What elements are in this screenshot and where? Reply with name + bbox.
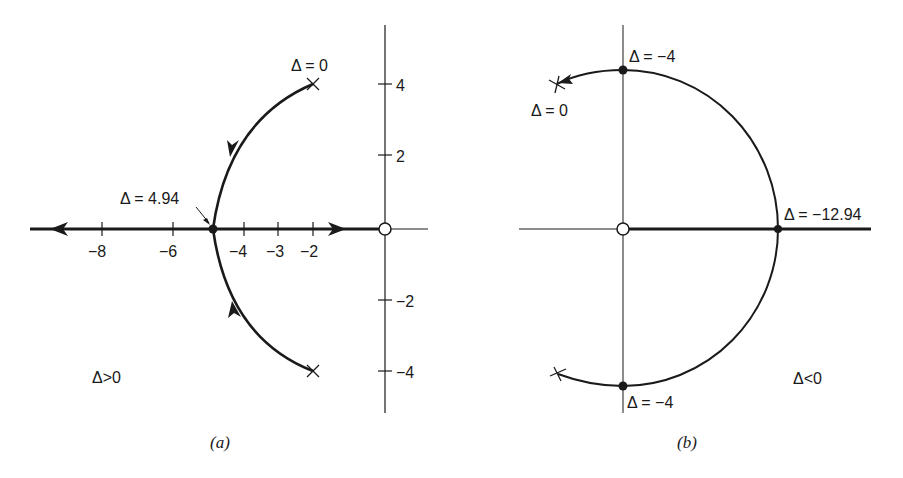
label-breakaway: Δ = 4.94 [120, 190, 179, 207]
breakin-point [774, 225, 782, 233]
locus-arc-lower-b [558, 229, 778, 386]
pole-x-icon [307, 365, 319, 377]
crossing-point-top [619, 66, 628, 75]
x-tick-label: −4 [229, 243, 247, 260]
x-tick-label: −6 [159, 243, 177, 260]
label-delta-zero-b: Δ = 0 [531, 102, 568, 119]
label-region-a: Δ>0 [92, 369, 121, 386]
y-tick-label: 2 [396, 148, 405, 165]
pole-x-icon [307, 78, 319, 90]
breakaway-point [209, 225, 218, 234]
locus-branch-lower-a [213, 229, 313, 371]
caption-b: (b) [677, 433, 697, 452]
panel-a: −8 −6 −4 −3 −2 4 2 −2 −4 Δ = 0 Δ = 4.94 [30, 25, 428, 452]
label-breakin: Δ = −12.94 [784, 206, 862, 223]
x-tick-label: −8 [88, 243, 106, 260]
pole-x-icon [550, 367, 566, 381]
pole-x-icon [549, 76, 565, 93]
y-tick-label: −2 [396, 293, 414, 310]
label-region-b: Δ<0 [793, 370, 822, 387]
root-locus-figure: −8 −6 −4 −3 −2 4 2 −2 −4 Δ = 0 Δ = 4.94 [0, 0, 903, 478]
zero-circle-icon [379, 223, 391, 235]
locus-branch-upper-a [213, 84, 313, 229]
caption-a: (a) [210, 433, 230, 452]
crossing-point-bottom [619, 382, 628, 391]
panel-b: Δ = −4 Δ = 0 Δ = −12.94 Δ = −4 Δ<0 (b) [519, 25, 871, 452]
label-delta-zero-a: Δ = 0 [291, 57, 328, 74]
y-tick-label: −4 [396, 364, 414, 381]
zero-circle-icon [617, 223, 629, 235]
locus-arc-upper-b [557, 70, 778, 229]
y-tick-label: 4 [396, 77, 405, 94]
x-tick-label: −2 [300, 243, 318, 260]
arrow-down-icon [227, 140, 239, 157]
pointer-arrow-icon [203, 218, 210, 225]
label-bottom-crossing: Δ = −4 [627, 394, 673, 411]
x-tick-label: −3 [266, 243, 284, 260]
label-top-crossing: Δ = −4 [629, 48, 675, 65]
